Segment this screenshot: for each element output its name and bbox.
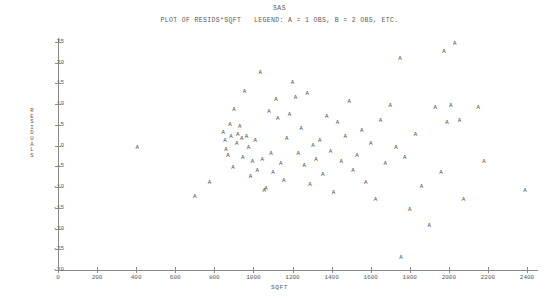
y-tick-mark bbox=[55, 146, 61, 147]
scatter-point: A bbox=[295, 151, 301, 157]
scatter-point: A bbox=[481, 159, 487, 165]
scatter-point: A bbox=[393, 145, 399, 151]
x-tick-mark bbox=[175, 267, 176, 273]
scatter-point: A bbox=[292, 95, 298, 101]
scatter-point: A bbox=[134, 145, 140, 151]
x-tick-mark bbox=[214, 267, 215, 273]
scatter-point: A bbox=[298, 126, 304, 132]
scatter-point: A bbox=[192, 194, 198, 200]
x-axis-label: SQFT bbox=[0, 284, 559, 291]
scatter-point: A bbox=[206, 180, 212, 186]
scatter-point: A bbox=[426, 223, 432, 229]
x-tick-label: 600 bbox=[158, 275, 192, 281]
scatter-point: A bbox=[368, 141, 374, 147]
scatter-point: A bbox=[261, 188, 267, 194]
scatter-point: A bbox=[398, 255, 404, 261]
y-tick-mark bbox=[55, 166, 61, 167]
scatter-point: A bbox=[244, 134, 250, 140]
y-tick-mark bbox=[55, 249, 61, 250]
scatter-point: A bbox=[225, 153, 231, 159]
scatter-point: A bbox=[301, 163, 307, 169]
scatter-point: A bbox=[452, 41, 458, 47]
scatter-point: A bbox=[237, 124, 243, 130]
x-tick-mark bbox=[332, 267, 333, 273]
x-tick-mark bbox=[371, 267, 372, 273]
scatter-point: A bbox=[475, 105, 481, 111]
scatter-point: A bbox=[387, 103, 393, 109]
scatter-points: AAAAAAAAAAAAAAAAAAAAAAAAAAAAAAAAAAAAAAAA… bbox=[0, 0, 559, 305]
scatter-point: A bbox=[373, 197, 379, 203]
x-tick-label: 1200 bbox=[276, 275, 310, 281]
scatter-point: A bbox=[448, 103, 454, 109]
scatter-point: A bbox=[444, 120, 450, 126]
scatter-point: A bbox=[235, 132, 241, 138]
scatter-point: A bbox=[281, 178, 287, 184]
scatter-point: A bbox=[228, 134, 234, 140]
scatter-point: A bbox=[307, 182, 313, 188]
scatter-point: A bbox=[338, 159, 344, 165]
scatter-point: A bbox=[313, 157, 319, 163]
scatter-point: A bbox=[304, 91, 310, 97]
scatter-point: A bbox=[278, 161, 284, 167]
scatter-point: A bbox=[273, 97, 279, 103]
sas-plot-page: SAS PLOT OF RESIDS*SQFT LEGEND: A = 1 OB… bbox=[0, 0, 559, 305]
scatter-point: A bbox=[382, 161, 388, 167]
system-title: SAS bbox=[0, 4, 559, 14]
scatter-point: A bbox=[231, 107, 237, 113]
plot-title: PLOT OF RESIDS*SQFT LEGEND: A = 1 OBS, B… bbox=[0, 16, 559, 26]
scatter-point: A bbox=[457, 118, 463, 124]
y-tick-mark bbox=[55, 63, 61, 64]
scatter-point: A bbox=[346, 99, 352, 105]
scatter-point: A bbox=[331, 190, 337, 196]
y-axis-line bbox=[58, 38, 59, 271]
scatter-point: A bbox=[402, 155, 408, 161]
x-tick-label: 1600 bbox=[354, 275, 388, 281]
x-tick-mark bbox=[58, 267, 59, 273]
y-tick-mark bbox=[55, 83, 61, 84]
scatter-point: A bbox=[259, 157, 265, 163]
x-tick-label: 200 bbox=[80, 275, 114, 281]
scatter-point: A bbox=[222, 138, 228, 144]
scatter-point: A bbox=[287, 112, 293, 118]
scatter-point: A bbox=[377, 118, 383, 124]
scatter-point: A bbox=[438, 170, 444, 176]
scatter-point: A bbox=[249, 159, 255, 165]
scatter-point: A bbox=[363, 180, 369, 186]
scatter-point: A bbox=[268, 151, 274, 157]
title-block: SAS PLOT OF RESIDS*SQFT LEGEND: A = 1 OB… bbox=[0, 4, 559, 26]
y-tick-mark bbox=[55, 104, 61, 105]
scatter-point: A bbox=[246, 145, 252, 151]
x-tick-label: 1400 bbox=[315, 275, 349, 281]
x-tick-label: 2400 bbox=[510, 275, 544, 281]
y-tick-mark bbox=[55, 187, 61, 188]
scatter-point: A bbox=[317, 138, 323, 144]
scatter-point: A bbox=[266, 109, 272, 115]
y-tick-mark bbox=[55, 42, 61, 43]
scatter-point: A bbox=[522, 188, 528, 194]
scatter-point: A bbox=[239, 136, 245, 142]
scatter-point: A bbox=[310, 143, 316, 149]
x-tick-mark bbox=[449, 267, 450, 273]
scatter-point: A bbox=[227, 122, 233, 128]
scatter-point: A bbox=[220, 130, 226, 136]
scatter-point: A bbox=[407, 207, 413, 213]
scatter-point: A bbox=[418, 184, 424, 190]
scatter-point: A bbox=[354, 153, 360, 159]
y-axis-label: RESIDUALS bbox=[27, 108, 37, 158]
x-tick-mark bbox=[253, 267, 254, 273]
y-axis-label-char: S bbox=[27, 153, 37, 159]
scatter-point: A bbox=[460, 197, 466, 203]
y-tick-mark bbox=[55, 208, 61, 209]
scatter-point: A bbox=[359, 128, 365, 134]
x-tick-mark bbox=[293, 267, 294, 273]
scatter-point: A bbox=[252, 138, 258, 144]
x-tick-label: 400 bbox=[119, 275, 153, 281]
scatter-point: A bbox=[324, 114, 330, 120]
x-tick-label: 1800 bbox=[393, 275, 427, 281]
scatter-point: A bbox=[328, 149, 334, 155]
x-tick-mark bbox=[136, 267, 137, 273]
scatter-point: A bbox=[234, 141, 240, 147]
scatter-point: A bbox=[257, 70, 263, 76]
scatter-point: A bbox=[342, 134, 348, 140]
x-tick-label: 2200 bbox=[471, 275, 505, 281]
